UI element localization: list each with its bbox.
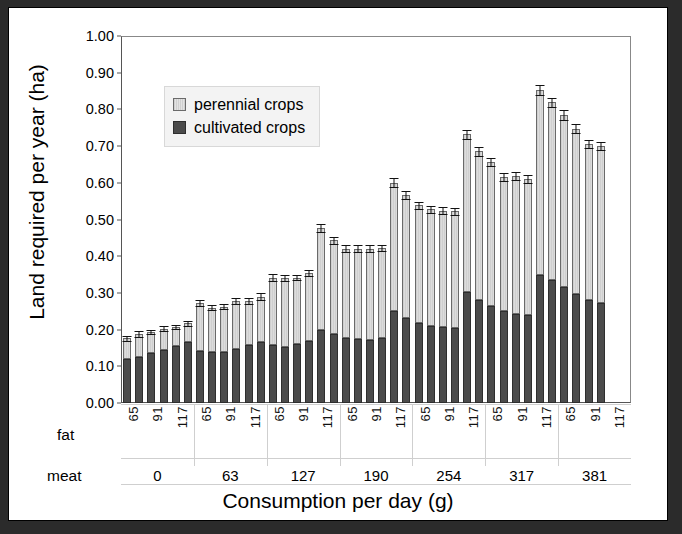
bar-segment-cultivated [232,349,240,403]
stacked-bar [463,134,471,403]
error-bar-cap-top [584,140,593,141]
stacked-bar [451,211,459,403]
fat-tick-label: 117 [320,406,335,428]
bar-segment-perennial [378,248,386,338]
bar-segment-perennial [451,211,459,327]
legend-label-perennial: perennial crops [194,96,303,114]
stacked-bar [281,278,289,403]
y-tick-label: 1.00 [86,28,114,44]
stacked-bar [172,327,180,403]
error-bar-cap-bottom [317,232,326,233]
bar-segment-cultivated [585,300,593,403]
meat-group-label: 0 [153,467,161,484]
error-bar-line [430,206,431,213]
error-bar-cap-top [475,147,484,148]
bar-segment-perennial [463,134,471,292]
fat-tick-label: 65 [345,406,360,421]
bar-segment-cultivated [342,338,350,403]
bar-segment-cultivated [172,346,180,403]
bar-segment-perennial [257,297,265,342]
y-tick-label: 0.50 [86,212,114,228]
error-bar-cap-top [523,175,532,176]
bar-segment-perennial [293,278,301,344]
y-tick-label: 0.40 [86,248,114,264]
error-bar-cap-top [353,245,362,246]
bar-segment-cultivated [135,357,143,403]
x-axis-title: Consumption per day (g) [9,489,667,513]
error-bar-cap-bottom [353,252,362,253]
error-bar-line [479,147,480,156]
error-bar-cap-top [511,172,520,173]
fat-tick-label: 65 [563,406,578,421]
fat-tick-label: 117 [539,406,554,428]
error-bar-line [588,140,589,148]
fat-tick-label: 91 [515,406,530,421]
stacked-bar [135,334,143,403]
bar-segment-cultivated [548,280,556,403]
bar-segment-cultivated [245,345,253,403]
stacked-bar [572,129,580,403]
error-bar-cap-bottom [584,148,593,149]
legend-item-perennial: perennial crops [173,93,305,116]
error-bar-cap-bottom [463,139,472,140]
bar-segment-perennial [220,307,228,352]
error-bar-line [467,130,468,140]
bar-segment-perennial [245,301,253,345]
stacked-bar [475,151,483,403]
error-bar-cap-top [147,330,156,331]
bar-segment-cultivated [512,314,520,403]
error-bar-cap-top [256,293,265,294]
bar-segment-perennial [439,211,447,328]
error-bar-cap-bottom [341,252,350,253]
meat-row-label: meat [47,467,81,485]
bar-segment-perennial [548,102,556,280]
bar-segment-perennial [500,177,508,311]
label-grid-rule [121,484,631,485]
fat-tick-label: 91 [150,406,165,421]
y-tick-label: 0.00 [86,395,114,411]
bar-segment-perennial [597,146,605,303]
fat-tick-label: 65 [199,406,214,421]
bar-segment-perennial [475,151,483,300]
bar-segment-cultivated [451,328,459,403]
error-bar-line [564,110,565,120]
stacked-bar [500,177,508,403]
error-bar-line [333,237,334,244]
error-bar-cap-bottom [560,120,569,121]
stacked-bar [366,249,374,404]
bar-segment-cultivated [560,287,568,403]
stacked-bar [305,273,313,403]
meat-group-label: 190 [363,467,388,484]
fat-tick-label: 91 [442,406,457,421]
error-bar-cap-bottom [572,133,581,134]
stacked-bar [439,211,447,403]
bar-segment-cultivated [184,342,192,403]
y-tick-label: 0.10 [86,358,114,374]
stacked-bar [378,248,386,403]
error-bar-line [539,85,540,95]
perennial-swatch-icon [173,98,186,111]
error-bar-cap-top [341,245,350,246]
stacked-bar [548,102,556,403]
bar-segment-cultivated [160,350,168,403]
chart-legend: perennial crops cultivated crops [164,86,320,147]
bar-segment-perennial [415,205,423,322]
error-bar-cap-top [232,298,241,299]
error-bar-cap-bottom [378,251,387,252]
error-bar-cap-bottom [268,281,277,282]
bar-segment-perennial [536,90,544,275]
error-bar-cap-top [268,274,277,275]
error-bar-cap-bottom [123,341,132,342]
error-bar-cap-bottom [548,107,557,108]
error-bar-cap-bottom [256,300,265,301]
label-grid-rule [121,458,631,459]
error-bar-cap-bottom [365,252,374,253]
error-bar-cap-bottom [135,337,144,338]
error-bar-cap-bottom [426,213,435,214]
error-bar-cap-top [365,245,374,246]
error-bar-cap-top [560,110,569,111]
stacked-bar [208,308,216,403]
error-bar-cap-top [548,98,557,99]
error-bar-cap-top [208,305,217,306]
error-bar-cap-bottom [183,326,192,327]
